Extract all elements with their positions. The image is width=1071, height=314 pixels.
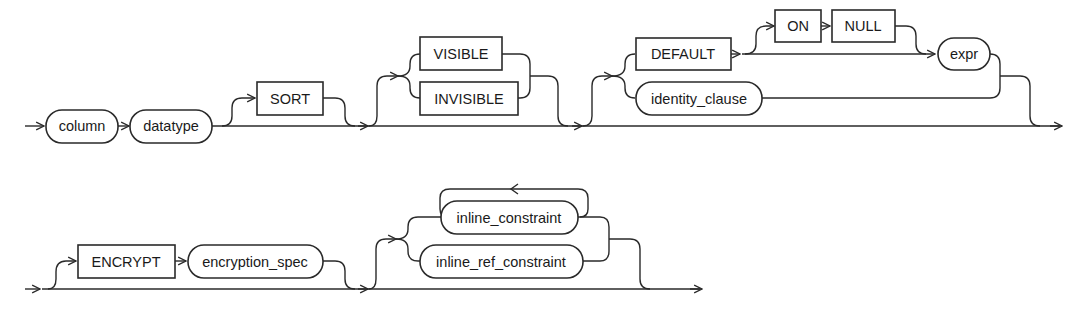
datatype-node: datatype: [130, 110, 212, 143]
visible-keyword: VISIBLE: [420, 37, 502, 70]
encrypt-label: ENCRYPT: [91, 254, 160, 270]
encryption-spec-label: encryption_spec: [202, 254, 308, 270]
null-label: NULL: [844, 18, 881, 34]
on-null-branch-out: [895, 26, 926, 54]
row-2: ENCRYPT encryption_spec inline_constrain…: [25, 184, 702, 289]
default-branch-out: [1000, 76, 1040, 126]
constraint-branch-out: [609, 239, 650, 289]
row-1: column datatype SORT VISIBLE INVISIBLE: [25, 10, 1062, 143]
sort-keyword: SORT: [257, 82, 323, 115]
visible-label: VISIBLE: [434, 46, 489, 62]
invisible-keyword: INVISIBLE: [420, 82, 518, 115]
visible-branch: [398, 54, 420, 76]
sort-branch-out: [323, 98, 355, 126]
inline-ref-constraint-branch: [396, 239, 420, 261]
datatype-label: datatype: [143, 118, 199, 134]
encryption-spec-node: encryption_spec: [188, 245, 323, 278]
syntax-diagram: column datatype SORT VISIBLE INVISIBLE: [0, 0, 1071, 314]
inline-constraint-branch: [396, 217, 441, 239]
on-keyword: ON: [775, 10, 821, 42]
visibility-branch-in: [369, 76, 398, 126]
on-label: ON: [787, 18, 809, 34]
null-keyword: NULL: [832, 10, 895, 42]
identity-branch: [612, 76, 635, 98]
encrypt-branch-out: [323, 261, 355, 289]
constraint-join: [578, 217, 609, 261]
inline-ref-constraint-node: inline_ref_constraint: [420, 245, 583, 278]
on-null-branch-in: [745, 26, 774, 54]
inline-constraint-node: inline_constraint: [441, 201, 578, 234]
invisible-label: INVISIBLE: [434, 91, 504, 107]
expr-label: expr: [950, 46, 978, 62]
default-branch: [612, 54, 635, 76]
identity-clause-node: identity_clause: [636, 82, 762, 115]
default-keyword: DEFAULT: [636, 38, 731, 70]
sort-label: SORT: [270, 91, 310, 107]
inline-constraint-label: inline_constraint: [457, 210, 562, 226]
inline-ref-constraint-label: inline_ref_constraint: [436, 254, 566, 270]
invisible-branch: [398, 76, 420, 98]
expr-node: expr: [938, 38, 990, 70]
constraint-branch-in: [369, 239, 396, 289]
encrypt-keyword: ENCRYPT: [78, 245, 175, 278]
column-label: column: [59, 118, 106, 134]
default-label: DEFAULT: [651, 46, 715, 62]
column-node: column: [46, 110, 118, 143]
visibility-branch-out: [530, 76, 568, 126]
identity-clause-label: identity_clause: [651, 91, 747, 107]
sort-branch-in: [222, 98, 255, 126]
default-branch-in: [583, 76, 612, 126]
encrypt-branch-in: [48, 261, 76, 289]
